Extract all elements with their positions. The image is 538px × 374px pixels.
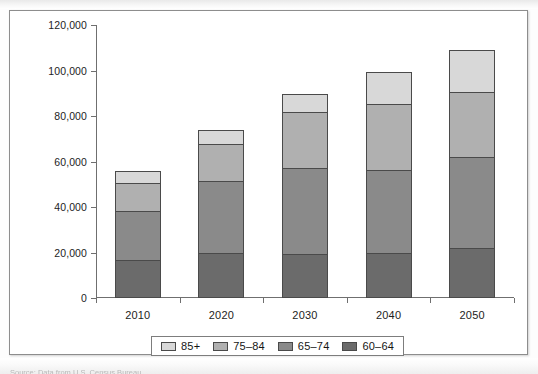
y-tick-label: 100,000 — [48, 65, 87, 77]
legend-swatch-icon — [213, 342, 228, 351]
x-tick-label: 2030 — [292, 309, 317, 321]
y-tick-label: 20,000 — [54, 247, 87, 259]
y-tick — [91, 162, 96, 163]
legend-swatch-icon — [278, 342, 293, 351]
bar-segment-75-84[interactable] — [198, 144, 244, 182]
stacked-bar[interactable] — [115, 171, 161, 298]
chart-legend: 85+75–8465–7460–64 — [151, 336, 404, 356]
y-tick — [91, 25, 96, 26]
x-tick — [180, 298, 181, 303]
source-caption: Source: Data from U.S. Census Bureau — [10, 367, 141, 374]
legend-item[interactable]: 60–64 — [342, 340, 394, 352]
legend-item[interactable]: 75–84 — [213, 340, 265, 352]
y-tick — [91, 116, 96, 117]
x-tick-label: 2040 — [376, 309, 401, 321]
y-tick-label: 60,000 — [54, 156, 87, 168]
legend-item[interactable]: 65–74 — [278, 340, 330, 352]
legend-swatch-icon — [342, 342, 357, 351]
x-tick-label: 2020 — [209, 309, 234, 321]
x-tick — [263, 298, 264, 303]
bar-segment-75-84[interactable] — [366, 104, 412, 171]
bar-segment-60-64[interactable] — [449, 248, 495, 298]
y-tick-label: 0 — [81, 292, 87, 304]
x-tick — [514, 298, 515, 303]
y-tick-label: 80,000 — [54, 110, 87, 122]
bar-segment-65-74[interactable] — [115, 211, 161, 261]
y-tick — [91, 71, 96, 72]
bar-segment-65-74[interactable] — [449, 157, 495, 249]
bar-segment-85plus[interactable] — [449, 50, 495, 93]
x-tick — [430, 298, 431, 303]
y-tick-label: 120,000 — [48, 19, 87, 31]
stacked-bar[interactable] — [198, 130, 244, 298]
y-tick-label: 40,000 — [54, 201, 87, 213]
stacked-bar[interactable] — [282, 94, 328, 298]
bar-segment-75-84[interactable] — [115, 183, 161, 213]
legend-label: 65–74 — [298, 340, 330, 352]
bar-segment-85plus[interactable] — [282, 94, 328, 113]
bar-segment-85plus[interactable] — [366, 72, 412, 105]
bar-segment-65-74[interactable] — [366, 170, 412, 253]
bar-segment-60-64[interactable] — [282, 254, 328, 298]
bar-segment-60-64[interactable] — [198, 253, 244, 299]
legend-item[interactable]: 85+ — [161, 340, 200, 352]
x-tick-label: 2010 — [125, 309, 150, 321]
bar-segment-60-64[interactable] — [115, 260, 161, 298]
chart-frame: 020,00040,00060,00080,000100,000120,000 … — [9, 10, 528, 355]
legend-label: 85+ — [181, 340, 200, 352]
x-tick — [96, 298, 97, 303]
bar-segment-85plus[interactable] — [198, 130, 244, 145]
y-tick — [91, 207, 96, 208]
chart-page: 020,00040,00060,00080,000100,000120,000 … — [0, 0, 538, 374]
bar-segment-75-84[interactable] — [282, 112, 328, 169]
y-axis-line — [96, 25, 97, 298]
legend-swatch-icon — [161, 342, 176, 351]
y-tick — [91, 253, 96, 254]
x-tick-label: 2050 — [460, 309, 485, 321]
bar-segment-75-84[interactable] — [449, 92, 495, 158]
x-tick — [347, 298, 348, 303]
plot-area: 020,00040,00060,00080,000100,000120,000 … — [96, 25, 514, 298]
legend-label: 60–64 — [362, 340, 394, 352]
stacked-bar[interactable] — [366, 72, 412, 298]
bar-segment-65-74[interactable] — [282, 168, 328, 254]
bar-segment-65-74[interactable] — [198, 181, 244, 254]
bar-segment-60-64[interactable] — [366, 253, 412, 299]
scan-shading-top — [0, 0, 538, 9]
legend-label: 75–84 — [233, 340, 265, 352]
stacked-bar[interactable] — [449, 50, 495, 298]
